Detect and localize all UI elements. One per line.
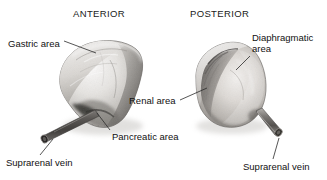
specimen-artwork: [0, 0, 327, 180]
leader-suprarenal-vein-right: [273, 138, 279, 159]
label-diaphragmatic-area: Diaphragmatic area: [252, 32, 314, 54]
label-suprarenal-vein-left: Suprarenal vein: [6, 157, 73, 168]
view-title-anterior: ANTERIOR: [73, 8, 125, 19]
anatomy-figure: ANTERIOR POSTERIOR Gastric area Diaphrag…: [0, 0, 327, 180]
view-title-posterior: POSTERIOR: [190, 8, 249, 19]
label-pancreatic-area: Pancreatic area: [112, 131, 179, 142]
anterior-gland-graphic: [40, 34, 155, 144]
label-suprarenal-vein-right: Suprarenal vein: [243, 161, 310, 172]
label-gastric-area: Gastric area: [8, 38, 60, 49]
label-renal-area: Renal area: [129, 95, 175, 106]
